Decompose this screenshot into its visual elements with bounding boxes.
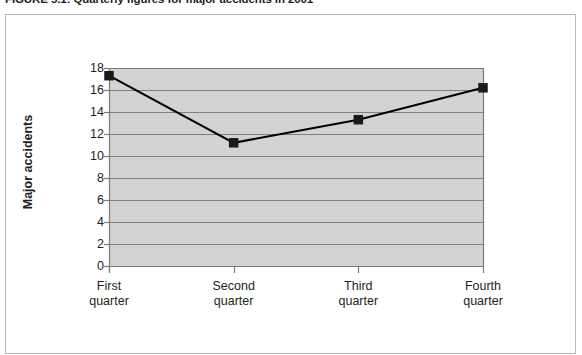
x-axis-tick-labels: FirstquarterSecondquarterThirdquarterFou… (6, 15, 577, 355)
x-axis-tick-label-line: quarter (423, 294, 543, 309)
x-axis-tick-label-line: quarter (174, 294, 294, 309)
x-axis-tick-label: Firstquarter (49, 279, 169, 309)
x-axis-tick-label-line: Second (174, 279, 294, 294)
chart-area: Major accidents 024681012141618 Firstqua… (6, 15, 577, 355)
x-axis-tick-label-line: First (49, 279, 169, 294)
x-axis-tick-label: Thirdquarter (298, 279, 418, 309)
figure-frame: Major accidents 024681012141618 Firstqua… (5, 14, 576, 354)
figure-caption: FIGURE 5.1: Quarterly figures for major … (5, 0, 313, 5)
x-axis-tick-label-line: quarter (49, 294, 169, 309)
x-axis-tick-label: Fourthquarter (423, 279, 543, 309)
x-axis-tick-label: Secondquarter (174, 279, 294, 309)
x-axis-tick-label-line: Third (298, 279, 418, 294)
x-axis-tick-label-line: Fourth (423, 279, 543, 294)
x-axis-tick-label-line: quarter (298, 294, 418, 309)
